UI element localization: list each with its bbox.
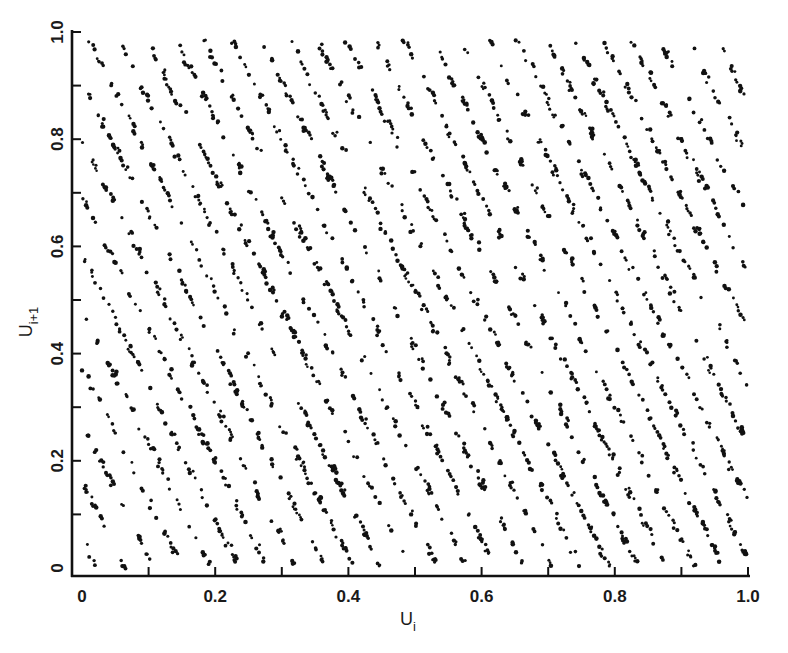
y-tick-label: 1.0: [48, 20, 67, 44]
axes: [71, 30, 750, 577]
data-points: [80, 38, 749, 570]
y-tick-label: 0: [48, 563, 67, 572]
y-tick-label: 0.2: [48, 449, 67, 473]
x-tick-labels: 00.20.40.60.81.0: [77, 587, 760, 606]
x-tick-label: 0: [77, 587, 86, 606]
x-tick-label: 0.2: [203, 587, 227, 606]
x-tick-label: 0.8: [603, 587, 627, 606]
y-tick-label: 0.6: [48, 235, 67, 259]
x-tick-label: 1.0: [736, 587, 760, 606]
scatter-chart: 00.20.40.60.81.0 00.20.40.60.81.0 Ui Ui+…: [0, 0, 788, 653]
y-tick-label: 0.8: [48, 127, 67, 151]
x-axis-title: Ui: [400, 609, 416, 634]
y-axis-title: Ui+1: [16, 307, 41, 338]
y-ticks: [72, 32, 81, 514]
x-tick-label: 0.6: [470, 587, 494, 606]
y-tick-label: 0.4: [48, 341, 67, 365]
x-tick-label: 0.4: [337, 587, 361, 606]
y-tick-labels: 00.20.40.60.81.0: [48, 20, 67, 573]
x-ticks: [149, 567, 748, 576]
